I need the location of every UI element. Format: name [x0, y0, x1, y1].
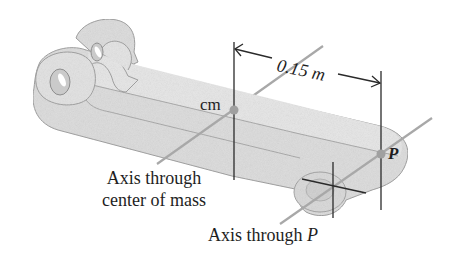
- axis-through-p-label: Axis through P: [208, 226, 318, 244]
- diagram-graphics: [0, 0, 461, 261]
- axis-through-cm-line1: Axis through: [88, 167, 220, 189]
- cm-label: cm: [200, 96, 221, 113]
- axis-through-cm-line2: center of mass: [88, 189, 220, 211]
- axis-through-p-symbol: P: [307, 225, 318, 245]
- axis-through-cm-label: Axis through center of mass: [88, 167, 220, 211]
- physical-pendulum-diagram: cm 0.15 m P Axis through center of mass …: [0, 0, 461, 261]
- p-point: [377, 150, 386, 159]
- axis-through-p-text: Axis through: [208, 225, 307, 245]
- point-p-label: P: [388, 145, 398, 162]
- cm-point: [230, 106, 239, 115]
